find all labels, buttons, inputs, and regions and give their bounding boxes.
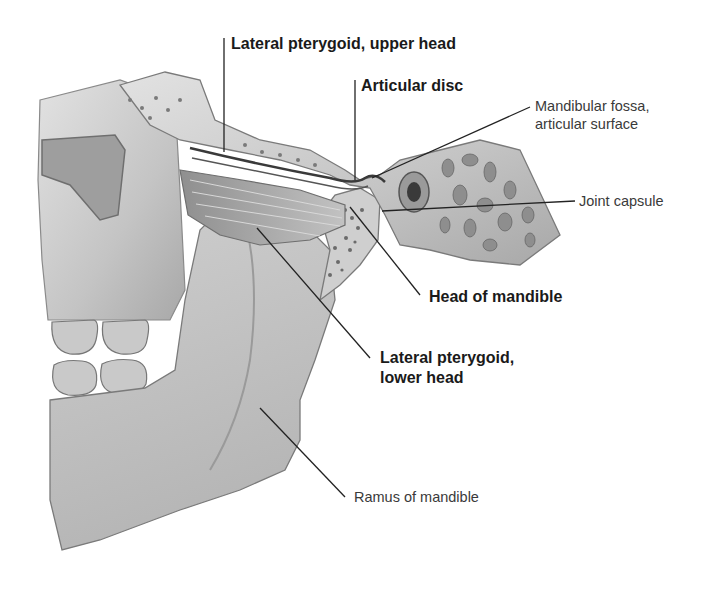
- anatomy-illustration: [0, 0, 703, 614]
- label-head-of-mandible: Head of mandible: [429, 288, 562, 306]
- label-articular-disc: Articular disc: [361, 77, 463, 95]
- upper-teeth: [52, 320, 149, 354]
- label-mandibular-fossa-line2: articular surface: [535, 116, 638, 133]
- label-joint-capsule: Joint capsule: [579, 193, 664, 210]
- label-lateral-pterygoid-upper-head: Lateral pterygoid, upper head: [231, 35, 456, 53]
- tmj-diagram: Lateral pterygoid, upper head Articular …: [0, 0, 703, 614]
- label-ramus-of-mandible: Ramus of mandible: [354, 489, 479, 506]
- label-lateral-pterygoid-lower-line2: lower head: [380, 369, 464, 387]
- label-mandibular-fossa-line1: Mandibular fossa,: [535, 98, 649, 115]
- label-lateral-pterygoid-lower-line1: Lateral pterygoid,: [380, 349, 514, 367]
